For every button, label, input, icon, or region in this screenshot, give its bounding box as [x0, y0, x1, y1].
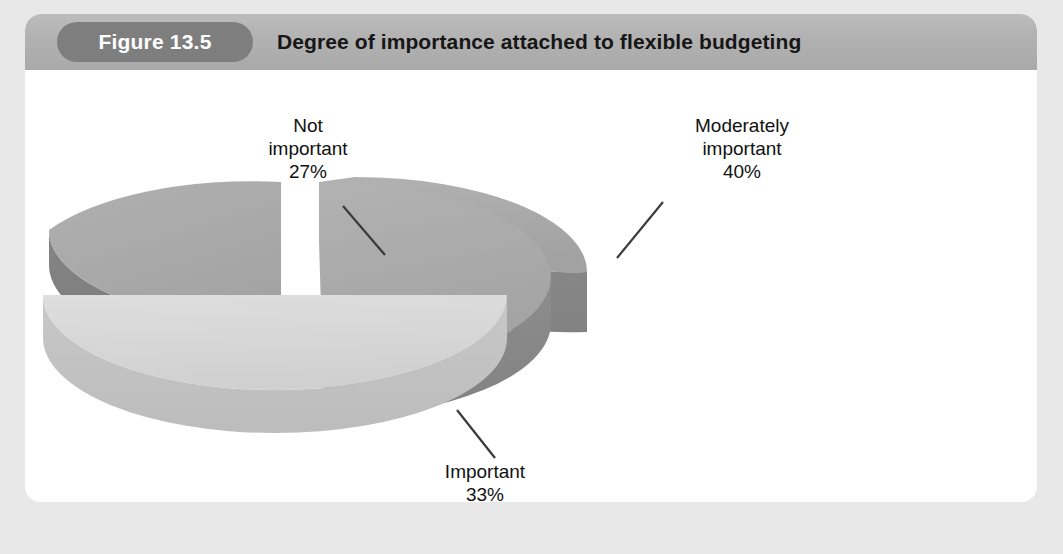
pie-label-moderately-important-value: 40%: [637, 160, 847, 183]
pie-label-moderately-important-line1: Moderately: [695, 115, 789, 136]
pie-label-important: Important 33%: [380, 460, 590, 502]
pie-label-not-important-line2: important: [268, 138, 347, 159]
pie-chart-graphic: [25, 70, 1037, 502]
pie-label-moderately-important-line2: important: [702, 138, 781, 159]
pie-label-not-important-line1: Not: [293, 115, 323, 136]
figure-card: Figure 13.5 Degree of importance attache…: [25, 14, 1037, 502]
figure-title: Degree of importance attached to flexibl…: [277, 14, 801, 70]
pie-label-not-important-value: 27%: [223, 160, 393, 183]
pie-slice-important: [43, 295, 507, 433]
pie-label-not-important: Not important 27%: [223, 114, 393, 183]
pie-chart-area: Not important 27% Moderately important 4…: [25, 70, 1037, 502]
figure-number-badge: Figure 13.5: [57, 22, 253, 62]
leader-line-moderately-important: [617, 202, 663, 258]
figure-header-band: Figure 13.5 Degree of importance attache…: [25, 14, 1037, 70]
pie-label-important-value: 33%: [380, 483, 590, 502]
figure-number-label: Figure 13.5: [98, 30, 211, 54]
pie-label-moderately-important: Moderately important 40%: [637, 114, 847, 183]
pie-label-important-line1: Important: [445, 461, 525, 482]
page-background: Figure 13.5 Degree of importance attache…: [0, 0, 1063, 554]
leader-line-important: [457, 410, 495, 458]
